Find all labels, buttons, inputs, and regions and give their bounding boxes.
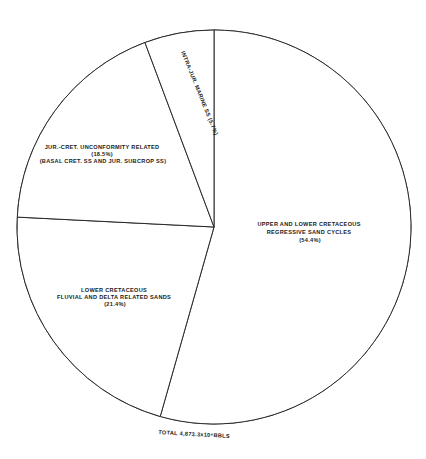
total-label: TOTAL 4,873.3x10⁶BBLS bbox=[158, 429, 230, 439]
pie-chart: UPPER AND LOWER CRETACEOUS REGRESSIVE SA… bbox=[0, 0, 426, 459]
pie-slices bbox=[17, 30, 411, 424]
